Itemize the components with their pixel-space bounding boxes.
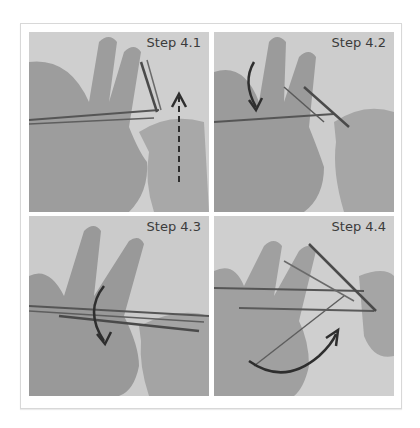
step-4-3-photo: Step 4.3 [29, 216, 209, 396]
step-label: Step 4.2 [332, 35, 386, 50]
hand-with-needle-illustration [214, 32, 394, 212]
hand-with-needle-illustration [214, 216, 394, 396]
step-4-4-photo: Step 4.4 [214, 216, 394, 396]
hand-with-needle-illustration [29, 216, 209, 396]
step-label: Step 4.4 [332, 219, 386, 234]
step-label: Step 4.3 [147, 219, 201, 234]
step-4-1-photo: Step 4.1 [29, 32, 209, 212]
step-label: Step 4.1 [147, 35, 201, 50]
hand-with-needle-illustration [29, 32, 209, 212]
step-4-2-photo: Step 4.2 [214, 32, 394, 212]
